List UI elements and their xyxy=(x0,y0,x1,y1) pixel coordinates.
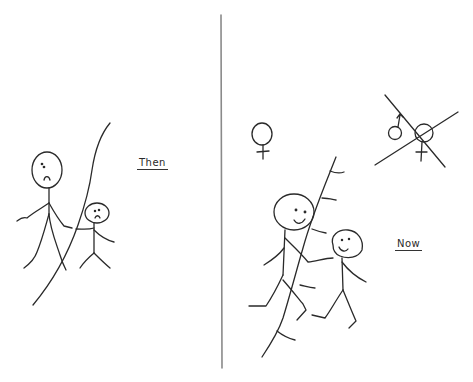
child-figure-happy xyxy=(312,230,366,328)
then-panel-drawing xyxy=(17,123,114,305)
wall-line xyxy=(33,123,110,305)
then-label: Then xyxy=(137,157,168,170)
now-panel-drawing xyxy=(249,95,458,357)
female-symbol-icon xyxy=(252,123,272,159)
now-label: Now xyxy=(395,238,422,251)
adult-figure-happy xyxy=(249,194,333,320)
drawing-canvas xyxy=(0,0,473,382)
crossed-out-gender-symbol-icon xyxy=(375,95,458,167)
panel-divider xyxy=(221,15,222,368)
adult-figure-sad xyxy=(17,152,72,270)
